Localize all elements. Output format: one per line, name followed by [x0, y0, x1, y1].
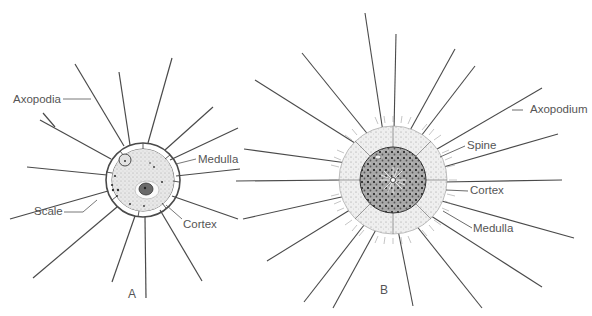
- panel-label-b: B: [380, 284, 388, 296]
- cell-b: [236, 13, 574, 308]
- leader-lines-b: [440, 110, 523, 228]
- label-scale: Scale: [34, 206, 63, 218]
- heliozoa-diagram: [0, 0, 592, 316]
- panel-label-a: A: [128, 288, 136, 300]
- label-cortex-a: Cortex: [183, 219, 217, 231]
- label-medulla-a: Medulla: [198, 154, 238, 166]
- label-axopodium: Axopodium: [530, 104, 588, 116]
- label-cortex-b: Cortex: [470, 185, 504, 197]
- label-medulla-b: Medulla: [473, 223, 513, 235]
- label-spine: Spine: [467, 140, 496, 152]
- label-axopodia: Axopodia: [13, 94, 61, 106]
